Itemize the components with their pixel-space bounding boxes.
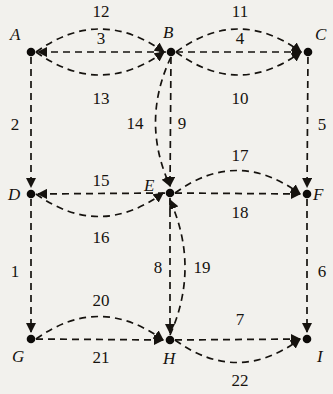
graph-edge-e9 xyxy=(170,57,171,186)
graph-edge-e22 xyxy=(175,339,300,362)
edge-weight-label-e2: 2 xyxy=(11,115,20,134)
graph-node-B xyxy=(167,48,176,57)
node-label-G: G xyxy=(12,347,24,366)
graph-edge-e18 xyxy=(175,193,300,194)
graph-edge-e5 xyxy=(307,57,308,187)
graph-node-G xyxy=(27,335,36,344)
edge-weight-label-e4: 4 xyxy=(236,29,245,48)
graph-edge-e13 xyxy=(36,52,164,75)
graph-edge-e7 xyxy=(175,339,300,340)
edge-weight-label-e8: 8 xyxy=(154,258,163,277)
edge-weight-label-e1: 1 xyxy=(11,262,20,281)
graph-edge-e20 xyxy=(36,316,163,339)
graph-node-I xyxy=(303,335,312,344)
edge-weight-label-e7: 7 xyxy=(236,310,245,329)
graph-node-A xyxy=(27,48,36,57)
edge-weight-label-e9: 9 xyxy=(178,114,187,133)
graph-edge-e17 xyxy=(175,170,300,193)
graph-edge-e19 xyxy=(170,200,185,335)
graph-edge-e14 xyxy=(156,57,171,186)
node-label-I: I xyxy=(316,347,324,366)
edge-weight-label-e5: 5 xyxy=(318,115,327,134)
edge-weight-label-e12: 12 xyxy=(93,2,110,21)
node-label-D: D xyxy=(7,185,21,204)
node-label-B: B xyxy=(163,23,174,42)
edge-weight-label-e11: 11 xyxy=(232,2,248,21)
graph-edge-e16 xyxy=(36,193,163,216)
edge-weight-label-e13: 13 xyxy=(93,89,110,108)
graph-node-H xyxy=(166,336,175,345)
node-label-F: F xyxy=(312,185,324,204)
edge-weight-label-e3: 3 xyxy=(97,29,106,48)
edge-weight-label-e19: 19 xyxy=(194,258,211,277)
node-label-A: A xyxy=(9,25,21,44)
edge-weight-label-e16: 16 xyxy=(93,228,110,247)
graph-edge-e10 xyxy=(176,52,301,75)
graph-node-E xyxy=(166,189,175,198)
edge-weight-label-e6: 6 xyxy=(318,262,327,281)
graph-edge-e21 xyxy=(36,339,163,340)
edge-weight-label-e10: 10 xyxy=(232,89,249,108)
edge-weight-label-e15: 15 xyxy=(93,171,110,190)
graph-node-C xyxy=(304,48,313,57)
edge-weight-label-e18: 18 xyxy=(232,203,249,222)
edge-weight-label-e21: 21 xyxy=(93,348,110,367)
node-label-E: E xyxy=(143,176,155,195)
graph-node-D xyxy=(27,190,36,199)
edge-weight-label-e17: 17 xyxy=(232,146,250,165)
graph-node-F xyxy=(303,190,312,199)
node-label-H: H xyxy=(162,349,177,368)
nodes-layer: ABCDEFGHI xyxy=(7,23,327,368)
edge-weight-label-e22: 22 xyxy=(232,371,249,390)
diagram-canvas: ABCDEFGHI 123131141025149151617181681920… xyxy=(0,0,333,394)
edge-weight-label-e14: 14 xyxy=(127,114,145,133)
edge-weight-label-e20: 20 xyxy=(93,291,110,310)
node-label-C: C xyxy=(315,25,327,44)
graph-svg: ABCDEFGHI 123131141025149151617181681920… xyxy=(0,0,333,394)
